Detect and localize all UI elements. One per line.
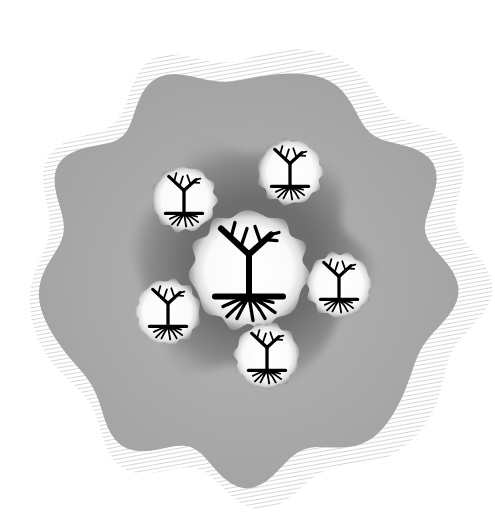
illustration-canvas: Central tree Tree NW Tree NE	[0, 0, 495, 524]
tree-community-illustration: Central tree Tree NW Tree NE	[0, 0, 495, 524]
